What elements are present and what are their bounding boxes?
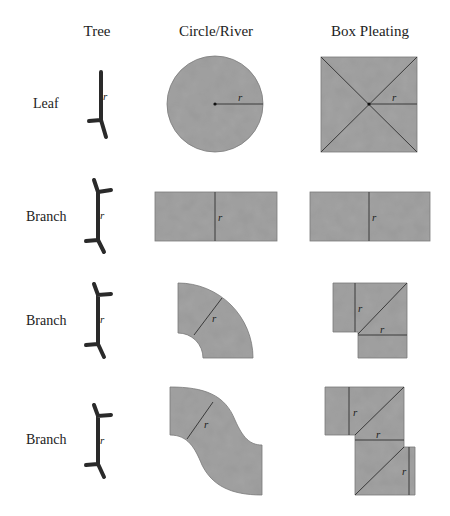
- branch-tree-icon-3: r: [86, 405, 111, 477]
- branch-box-pleat-corner: r r: [333, 283, 407, 358]
- radius-label: r: [392, 91, 397, 103]
- column-header-tree: Tree: [84, 23, 111, 39]
- leaf-box-pleat-square: r: [321, 57, 417, 152]
- branch-box-pleat-zigzag: r r r: [325, 387, 415, 495]
- radius-label: r: [238, 91, 243, 103]
- radius-label: r: [204, 418, 209, 430]
- radius-label: r: [100, 434, 105, 446]
- branch-river-s-curve: r: [170, 387, 262, 495]
- radius-label: r: [100, 209, 105, 221]
- branch-river-quarter-arc: r: [178, 283, 253, 358]
- radius-label: r: [212, 312, 217, 324]
- leaf-tree-icon: r: [89, 72, 108, 137]
- row-label-branch-2: Branch: [26, 313, 66, 328]
- tree-method-diagram: Tree Circle/River Box Pleating Leaf Bran…: [0, 0, 450, 516]
- radius-label: r: [218, 211, 223, 223]
- branch-tree-icon-1: r: [86, 180, 111, 252]
- branch-tree-icon-2: r: [86, 284, 111, 357]
- radius-label: r: [380, 323, 385, 335]
- branch-box-pleat-rect: r: [310, 192, 430, 241]
- radius-label: r: [402, 465, 407, 477]
- radius-label: r: [358, 302, 363, 314]
- radius-label: r: [100, 313, 105, 325]
- row-label-leaf: Leaf: [33, 96, 59, 111]
- leaf-circle-flap: r: [167, 56, 263, 152]
- column-header-box-pleating: Box Pleating: [331, 23, 409, 39]
- radius-label: r: [353, 406, 358, 418]
- column-header-circle-river: Circle/River: [179, 23, 253, 39]
- radius-label: r: [376, 428, 381, 440]
- radius-label: r: [372, 211, 377, 223]
- row-label-branch-1: Branch: [26, 209, 66, 224]
- radius-label: r: [103, 90, 108, 102]
- branch-river-rect: r: [155, 192, 277, 241]
- row-label-branch-3: Branch: [26, 432, 66, 447]
